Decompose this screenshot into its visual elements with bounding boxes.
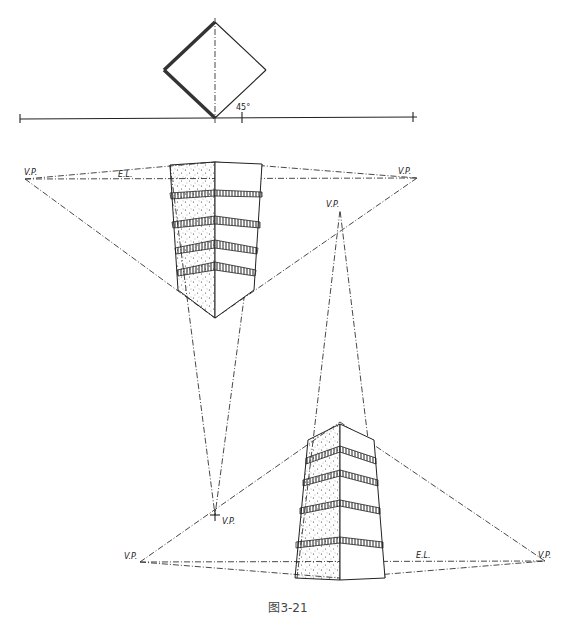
ground-line: [20, 117, 417, 119]
square-edge-bold: [164, 22, 215, 70]
angle-label: 45°: [236, 103, 250, 112]
perspective-drawing: 45° V.P. V.P. E.L. V.P.: [0, 0, 576, 624]
vp-bottom-label: V.P.: [222, 517, 235, 526]
eye-level-label: E.L.: [118, 170, 133, 179]
eye-level-label-2: E.L.: [416, 551, 431, 560]
figure-caption: 图3-21: [0, 598, 576, 615]
vp-left-label-2: V.P.: [124, 552, 137, 561]
square-edge: [215, 22, 266, 70]
vp-left-label: V.P.: [24, 168, 37, 177]
vp-right-label-2: V.P.: [538, 551, 551, 560]
plan-view: 45°: [20, 18, 417, 125]
vp-right-label: V.P.: [398, 167, 411, 176]
left-face: [170, 162, 215, 318]
vp-top-label: V.P.: [326, 200, 339, 209]
right-face: [215, 162, 262, 318]
